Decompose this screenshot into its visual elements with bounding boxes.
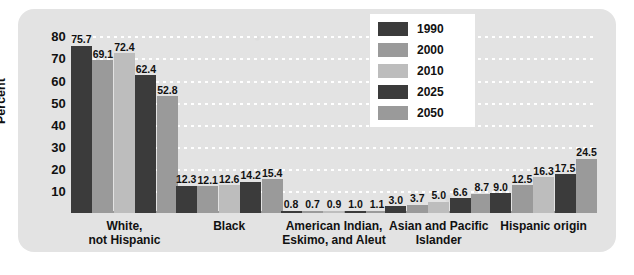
y-axis-tick-label: 50: [20, 95, 66, 110]
bar-value-label: 6.6: [453, 187, 468, 198]
bar: 14.2: [240, 182, 261, 213]
bar: 3.0: [385, 206, 406, 213]
bar-value-label: 69.1: [93, 49, 113, 60]
bar-group: 12.312.112.614.215.4: [177, 32, 282, 213]
legend-label: 1990: [417, 22, 444, 36]
bar-value-label: 0.9: [327, 199, 342, 210]
y-axis: Percent 1020304050607080: [0, 32, 72, 213]
bar: 24.5: [576, 159, 597, 213]
bar-value-label: 1.0: [348, 199, 363, 210]
bar-value-label: 16.3: [533, 166, 553, 177]
bar-group: 9.012.516.317.524.5: [491, 32, 596, 213]
bar: 6.6: [450, 198, 471, 213]
bar: 12.5: [512, 185, 533, 213]
bar: 75.7: [71, 46, 92, 213]
bar-value-label: 0.7: [305, 199, 320, 210]
bar: 12.6: [219, 185, 240, 213]
bar: 12.1: [197, 186, 218, 213]
bar: 9.0: [490, 193, 511, 213]
legend-item: 2000: [378, 42, 444, 58]
bar-value-label: 15.4: [262, 168, 282, 179]
x-axis-category-label: Hispanic origin: [479, 219, 608, 233]
bar: 1.0: [345, 211, 366, 214]
bar-value-label: 75.7: [71, 34, 91, 45]
bar: 0.7: [302, 211, 323, 214]
bar: 62.4: [135, 75, 156, 213]
y-axis-title: Percent: [0, 78, 8, 124]
y-axis-tick-label: 70: [20, 51, 66, 66]
bar: 17.5: [555, 174, 576, 213]
bar: 0.9: [323, 211, 344, 214]
legend-label: 2010: [417, 64, 444, 78]
bar: 3.7: [407, 205, 428, 213]
bar-value-label: 14.2: [240, 170, 260, 181]
bar-value-label: 5.0: [431, 190, 446, 201]
legend-label: 2050: [417, 106, 444, 120]
legend-item: 2010: [378, 63, 444, 79]
bar: 69.1: [92, 60, 113, 213]
legend-label: 2000: [417, 43, 444, 57]
bar-value-label: 52.8: [157, 85, 177, 96]
bar-value-label: 3.7: [410, 193, 425, 204]
bar-value-label: 12.3: [176, 174, 196, 185]
bar-value-label: 24.5: [576, 147, 596, 158]
legend-item: 2025: [378, 84, 444, 100]
bar-value-label: 62.4: [136, 64, 156, 75]
bar-value-label: 9.0: [493, 182, 508, 193]
legend-item: 1990: [378, 21, 444, 37]
bar-value-label: 0.8: [284, 199, 299, 210]
bar: 16.3: [533, 177, 554, 213]
plot-area: 75.769.172.462.452.812.312.112.614.215.4…: [72, 32, 596, 213]
legend-swatch: [378, 64, 408, 78]
bar: 0.8: [281, 211, 302, 214]
bar: 12.3: [176, 186, 197, 213]
y-axis-tick-label: 10: [20, 183, 66, 198]
bar-value-label: 1.1: [370, 199, 385, 210]
y-axis-tick-label: 60: [20, 73, 66, 88]
bar: 15.4: [262, 179, 283, 213]
y-axis-tick-label: 20: [20, 161, 66, 176]
legend-swatch: [378, 85, 408, 99]
y-axis-tick-label: 30: [20, 139, 66, 154]
y-axis-tick-label: 40: [20, 117, 66, 132]
bar-value-label: 8.7: [474, 182, 489, 193]
legend-swatch: [378, 43, 408, 57]
y-axis-tick-label: 80: [20, 29, 66, 44]
legend-swatch: [378, 22, 408, 36]
bar: 5.0: [428, 202, 449, 213]
bar: 72.4: [114, 53, 135, 213]
bar-value-label: 12.1: [197, 175, 217, 186]
chart-legend: 19902000201020252050: [370, 14, 475, 127]
bar-value-label: 17.5: [555, 163, 575, 174]
bar-value-label: 12.5: [512, 174, 532, 185]
legend-item: 2050: [378, 105, 444, 121]
bar-value-label: 12.6: [219, 174, 239, 185]
bar-group: 75.769.172.462.452.8: [72, 32, 177, 213]
legend-swatch: [378, 106, 408, 120]
legend-label: 2025: [417, 85, 444, 99]
chart-figure: Percent 1020304050607080 75.769.172.462.…: [0, 0, 634, 275]
bar-value-label: 3.0: [388, 195, 403, 206]
bar-value-label: 72.4: [114, 42, 134, 53]
